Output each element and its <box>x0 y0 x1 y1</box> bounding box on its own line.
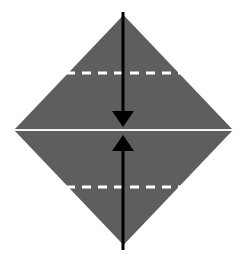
origami-diagram-canvas <box>0 0 247 260</box>
origami-diagram-root: Origami valley-fold diagram Gray diamond… <box>0 0 247 260</box>
